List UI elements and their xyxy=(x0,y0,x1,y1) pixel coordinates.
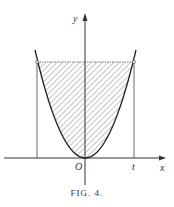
y-axis-arrow-icon xyxy=(83,13,88,21)
origin-label: O xyxy=(75,161,82,172)
x-axis-label: x xyxy=(160,162,164,173)
figure-caption: FIG. 4. xyxy=(0,188,174,198)
x-axis-arrow-icon xyxy=(159,156,166,161)
right-endpoint xyxy=(133,61,136,64)
y-axis-label: y xyxy=(73,13,77,24)
t-label: t xyxy=(132,161,135,172)
left-endpoint xyxy=(36,61,39,64)
parabola-diagram xyxy=(0,0,174,207)
